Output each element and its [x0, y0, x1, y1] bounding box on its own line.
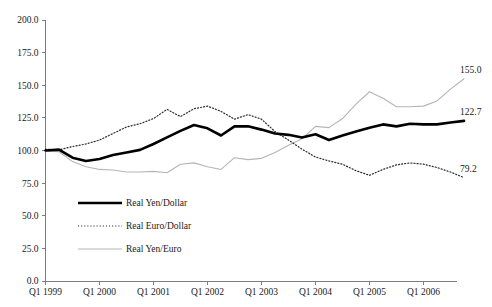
series-end-labels: 122.779.2155.0 [460, 65, 482, 174]
x-tick-label: Q1 2004 [299, 287, 332, 297]
x-tick-label: Q1 2002 [191, 287, 224, 297]
x-tick-label: Q1 2000 [83, 287, 116, 297]
legend-label-real-yen-dollar: Real Yen/Dollar [126, 198, 188, 208]
y-tick-label: 75.0 [22, 179, 39, 189]
y-tick-label: 25.0 [22, 244, 39, 254]
y-tick-label: 50.0 [22, 211, 39, 221]
y-tick-label: 125.0 [17, 113, 39, 123]
chart-legend: Real Yen/DollarReal Euro/DollarReal Yen/… [78, 198, 192, 254]
legend-label-real-euro-dollar: Real Euro/Dollar [126, 221, 192, 231]
end-label-real-yen-euro: 155.0 [460, 65, 482, 75]
y-axis-ticks: 0.025.050.075.0100.0125.0150.0175.0200.0 [17, 15, 45, 286]
chart-container: 0.025.050.075.0100.0125.0150.0175.0200.0… [0, 0, 492, 307]
y-tick-label: 175.0 [17, 48, 39, 58]
y-tick-label: 150.0 [17, 81, 39, 91]
line-chart-plot: 0.025.050.075.0100.0125.0150.0175.0200.0… [0, 0, 492, 307]
y-tick-label: 200.0 [17, 15, 39, 25]
x-tick-label: Q1 1999 [29, 287, 62, 297]
x-tick-label: Q1 2001 [137, 287, 170, 297]
x-axis-ticks: Q1 1999Q1 2000Q1 2001Q1 2002Q1 2003Q1 20… [29, 281, 440, 297]
y-tick-label: 0.0 [27, 276, 39, 286]
x-tick-label: Q1 2006 [407, 287, 440, 297]
series-line-real-euro-dollar [46, 106, 465, 178]
y-tick-label: 100.0 [17, 146, 39, 156]
end-label-real-euro-dollar: 79.2 [460, 164, 477, 174]
x-tick-label: Q1 2005 [353, 287, 386, 297]
series-line-real-yen-dollar [46, 121, 465, 161]
data-series-group [46, 79, 465, 178]
legend-label-real-yen-euro: Real Yen/Euro [126, 244, 182, 254]
end-label-real-yen-dollar: 122.7 [460, 107, 482, 117]
x-tick-label: Q1 2003 [245, 287, 278, 297]
